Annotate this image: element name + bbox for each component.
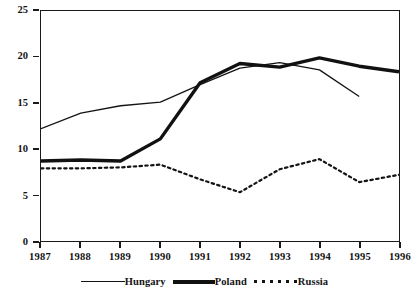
y-tick-label-25: 25 [0,4,28,15]
x-tick-label-1995: 1995 [338,251,382,262]
y-tick-mark-15 [33,102,39,104]
y-tick-label-0: 0 [0,236,28,247]
legend-item-poland: Poland [166,276,247,287]
legend-label-russia: Russia [298,276,328,287]
x-tick-mark-1990 [159,242,161,248]
x-tick-label-1994: 1994 [298,251,342,262]
y-axis: 2520151050 [0,0,40,252]
x-tick-label-1992: 1992 [218,251,262,262]
x-tick-mark-1995 [359,242,361,248]
x-tick-mark-1988 [79,242,81,248]
legend-label-poland: Poland [215,276,247,287]
y-tick-mark-25 [33,9,39,11]
legend-line-hungary-icon [81,277,125,286]
y-tick-label-10: 10 [0,143,28,154]
x-tick-label-1993: 1993 [258,251,302,262]
chart-legend: Hungary Poland Russia [0,276,409,287]
x-tick-mark-1991 [199,242,201,248]
x-tick-label-1988: 1988 [58,251,102,262]
legend-line-russia-icon [254,277,298,286]
series-line-poland [41,58,399,161]
x-axis: 1987198819891990199119921993199419951996 [40,242,400,270]
x-tick-label-1987: 1987 [18,251,62,262]
x-tick-label-1996: 1996 [378,251,416,262]
y-tick-mark-0 [33,241,39,243]
plot-area [40,10,400,242]
legend-line-poland-icon [173,277,215,286]
legend-label-hungary: Hungary [125,276,166,287]
series-line-russia [41,159,399,192]
x-tick-label-1991: 1991 [178,251,222,262]
y-tick-label-5: 5 [0,190,28,201]
legend-item-hungary: Hungary [81,276,166,287]
x-tick-label-1990: 1990 [138,251,182,262]
plot-svg [41,11,399,241]
y-tick-mark-5 [33,195,39,197]
y-tick-label-15: 15 [0,97,28,108]
x-tick-mark-1992 [239,242,241,248]
x-tick-label-1989: 1989 [98,251,142,262]
x-tick-mark-1994 [319,242,321,248]
x-tick-mark-1996 [399,242,401,248]
y-tick-mark-10 [33,148,39,150]
series-line-hungary [41,63,359,129]
x-tick-mark-1987 [39,242,41,248]
x-tick-mark-1993 [279,242,281,248]
y-tick-mark-20 [33,56,39,58]
x-tick-mark-1989 [119,242,121,248]
legend-item-russia: Russia [247,276,328,287]
y-tick-label-20: 20 [0,50,28,61]
